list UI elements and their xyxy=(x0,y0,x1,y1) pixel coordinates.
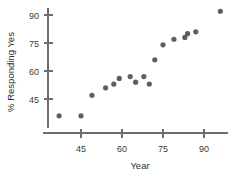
data-point xyxy=(218,9,223,14)
y-tick-label-75: 75 xyxy=(29,39,39,49)
data-point xyxy=(141,74,146,79)
data-point xyxy=(103,85,108,90)
y-axis-title: % Responding Yes xyxy=(5,32,16,112)
data-point xyxy=(111,81,116,86)
x-tick-label-45: 45 xyxy=(76,144,86,154)
data-point xyxy=(57,113,62,118)
x-tick-label-90: 90 xyxy=(199,144,209,154)
data-point xyxy=(171,37,176,42)
data-point xyxy=(152,57,157,62)
data-point xyxy=(160,42,165,47)
x-tick-label-60: 60 xyxy=(117,144,127,154)
data-point xyxy=(185,31,190,36)
x-axis-tick-labels: 45 60 75 90 xyxy=(76,144,209,154)
y-tick-label-90: 90 xyxy=(29,11,39,21)
data-point xyxy=(89,93,94,98)
y-tick-label-60: 60 xyxy=(29,67,39,77)
data-point xyxy=(147,81,152,86)
x-tick-label-75: 75 xyxy=(158,144,168,154)
plot-area: 90 75 60 45 45 60 75 90 Year % Respondin… xyxy=(0,0,240,178)
data-point xyxy=(128,74,133,79)
y-tick-label-45: 45 xyxy=(29,95,39,105)
data-point xyxy=(117,76,122,81)
x-axis-title: Year xyxy=(130,160,149,171)
data-points-layer xyxy=(57,9,223,119)
y-axis-tick-labels: 90 75 60 45 xyxy=(29,11,39,105)
scatter-chart: 90 75 60 45 45 60 75 90 Year % Respondin… xyxy=(0,0,240,178)
data-point xyxy=(133,80,138,85)
data-point xyxy=(193,29,198,34)
data-point xyxy=(78,113,83,118)
